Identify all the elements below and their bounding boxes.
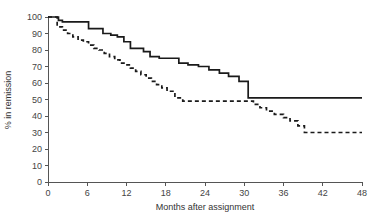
- y-axis: 0102030405060708090100: [27, 12, 48, 187]
- series-solid-curve: [48, 17, 362, 98]
- x-axis: 0612182430364248: [45, 182, 367, 198]
- y-tick-label: 70: [32, 62, 42, 72]
- x-tick-label: 42: [318, 188, 328, 198]
- y-tick-label: 80: [32, 45, 42, 55]
- x-tick-label: 18: [161, 188, 171, 198]
- y-tick-label: 40: [32, 111, 42, 121]
- y-tick-label: 60: [32, 78, 42, 88]
- y-tick-label: 100: [27, 12, 42, 22]
- y-tick-label: 50: [32, 95, 42, 105]
- y-axis-title: % in remission: [3, 71, 13, 130]
- x-tick-label: 0: [45, 188, 50, 198]
- series-dashed-curve: [48, 17, 362, 133]
- chart-series-group: [48, 17, 362, 133]
- y-tick-label: 30: [32, 128, 42, 138]
- x-tick-label: 12: [121, 188, 131, 198]
- x-tick-label: 48: [357, 188, 367, 198]
- x-tick-label: 30: [239, 188, 249, 198]
- x-tick-label: 6: [85, 188, 90, 198]
- y-tick-label: 10: [32, 161, 42, 171]
- x-tick-label: 24: [200, 188, 210, 198]
- chart-container: 0102030405060708090100 0612182430364248 …: [0, 0, 379, 215]
- y-tick-label: 90: [32, 29, 42, 39]
- y-tick-label: 20: [32, 144, 42, 154]
- x-tick-label: 36: [278, 188, 288, 198]
- survival-chart: 0102030405060708090100 0612182430364248 …: [0, 0, 379, 215]
- y-tick-label: 0: [37, 177, 42, 187]
- x-axis-title: Months after assignment: [156, 202, 255, 212]
